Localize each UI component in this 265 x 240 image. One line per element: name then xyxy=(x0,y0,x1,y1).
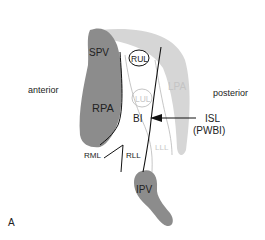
ipv-shape xyxy=(134,170,173,226)
label-spv: SPV xyxy=(89,47,109,58)
label-anterior: anterior xyxy=(28,85,59,95)
rml-rll-zigzag-line xyxy=(104,145,123,172)
label-rpa: RPA xyxy=(92,102,114,114)
label-lll: LLL xyxy=(155,143,169,152)
label-posterior: posterior xyxy=(213,88,248,98)
label-rll: RLL xyxy=(126,151,141,160)
label-isl: ISL xyxy=(205,113,220,124)
label-lpa: LPA xyxy=(168,81,186,92)
label-rml: RML xyxy=(84,151,101,160)
panel-label: A xyxy=(8,217,15,228)
label-bi: BI xyxy=(133,113,142,124)
label-lul: LUL xyxy=(135,94,151,104)
label-pwbi: (PWBI) xyxy=(193,125,225,136)
anatomy-diagram: SPV RPA LPA RUL LUL BI RML RLL LLL IPV a… xyxy=(0,0,265,240)
label-rul: RUL xyxy=(131,54,148,64)
label-ipv: IPV xyxy=(136,184,152,195)
